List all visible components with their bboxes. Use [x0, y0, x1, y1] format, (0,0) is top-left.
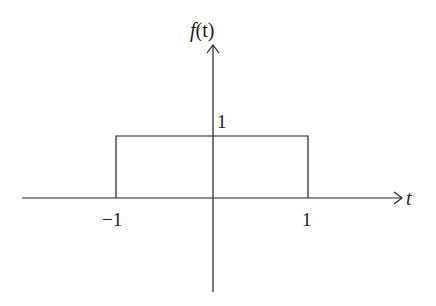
pulse-series	[116, 136, 308, 198]
x-tick-neg1: −1	[102, 209, 122, 230]
x-tick-pos1: 1	[302, 209, 312, 230]
y-axis-label: f(t)	[190, 19, 214, 42]
x-axis-label: t	[406, 187, 412, 209]
rectangular-pulse-plot: f(t) t 1 −1 1	[0, 0, 436, 306]
y-tick-1: 1	[217, 111, 227, 132]
plot-svg: f(t) t 1 −1 1	[0, 0, 436, 306]
